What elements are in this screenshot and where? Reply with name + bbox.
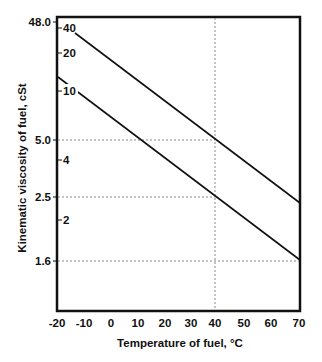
x-tick-70: 70 [293, 317, 306, 329]
y-tick-48: 48.0 [29, 16, 51, 28]
x-tick-0: 0 [108, 317, 114, 329]
x-tick-40: 40 [209, 317, 222, 329]
x-tick-60: 60 [265, 317, 278, 329]
inner-tick-20: 20 [63, 47, 76, 59]
inner-ticks [58, 28, 62, 220]
y-axis-title: Kinematic viscosity of fuel, cSt [16, 83, 28, 253]
y-tick-5: 5.0 [35, 134, 51, 146]
x-tick-50: 50 [238, 317, 251, 329]
inner-tick-40: 40 [63, 22, 76, 34]
x-tick-30: 30 [185, 317, 198, 329]
x-tick-20: 20 [159, 317, 172, 329]
x-tick-labels: -20 -10 0 10 20 30 40 50 60 70 [49, 317, 306, 329]
x-axis-title: Temperature of fuel, °C [117, 337, 243, 349]
inner-tick-4: 4 [63, 154, 70, 166]
y-tick-2-5: 2.5 [35, 191, 52, 203]
reference-gridlines [58, 18, 299, 310]
plot-frame [57, 17, 300, 311]
y-tick-1-6: 1.6 [35, 255, 51, 267]
inner-tick-2: 2 [63, 214, 69, 226]
viscosity-chart: 48.0 5.0 2.5 1.6 40 20 10 4 2 -20 -10 0 … [0, 0, 322, 362]
x-tick-10: 10 [132, 317, 145, 329]
lower-fuel-line [58, 77, 300, 260]
x-tick-minus-20: -20 [49, 317, 66, 329]
upper-fuel-line [75, 33, 300, 203]
x-tick-minus-10: -10 [76, 317, 93, 329]
inner-tick-10: 10 [63, 85, 76, 97]
